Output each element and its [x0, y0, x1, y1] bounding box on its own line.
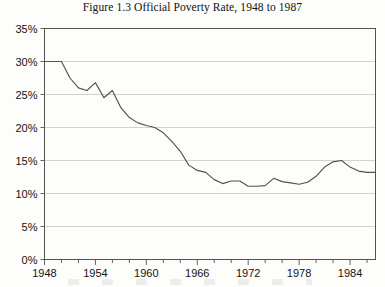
y-tick-label: 10% [15, 188, 37, 200]
x-tick-label: 1978 [287, 267, 311, 279]
x-tick-label: 1960 [134, 267, 158, 279]
grid-lines [45, 62, 376, 227]
figure-container: Figure 1.3 Official Poverty Rate, 1948 t… [0, 0, 385, 287]
plot-frame [45, 29, 376, 260]
y-tick-label: 25% [15, 89, 37, 101]
y-tick-label: 30% [15, 56, 37, 68]
y-tick-label: 5% [22, 221, 38, 233]
x-axis-ticks [45, 260, 368, 266]
y-tick-label: 15% [15, 155, 37, 167]
x-tick-label: 1972 [236, 267, 260, 279]
y-tick-label: 20% [15, 122, 37, 134]
x-tick-label: 1954 [83, 267, 107, 279]
y-axis-ticks [41, 29, 45, 260]
poverty-rate-series-line [45, 62, 376, 187]
x-axis-tick-labels: 1948195419601966197219781984 [32, 267, 362, 279]
x-tick-label: 1984 [338, 267, 362, 279]
poverty-rate-line-chart: 0%5%10%15%20%25%30%35% 19481954196019661… [0, 0, 385, 287]
x-tick-label: 1948 [32, 267, 56, 279]
y-tick-label: 35% [15, 23, 37, 35]
y-axis-tick-labels: 0%5%10%15%20%25%30%35% [15, 23, 37, 266]
y-tick-label: 0% [22, 254, 38, 266]
x-tick-label: 1966 [185, 267, 209, 279]
